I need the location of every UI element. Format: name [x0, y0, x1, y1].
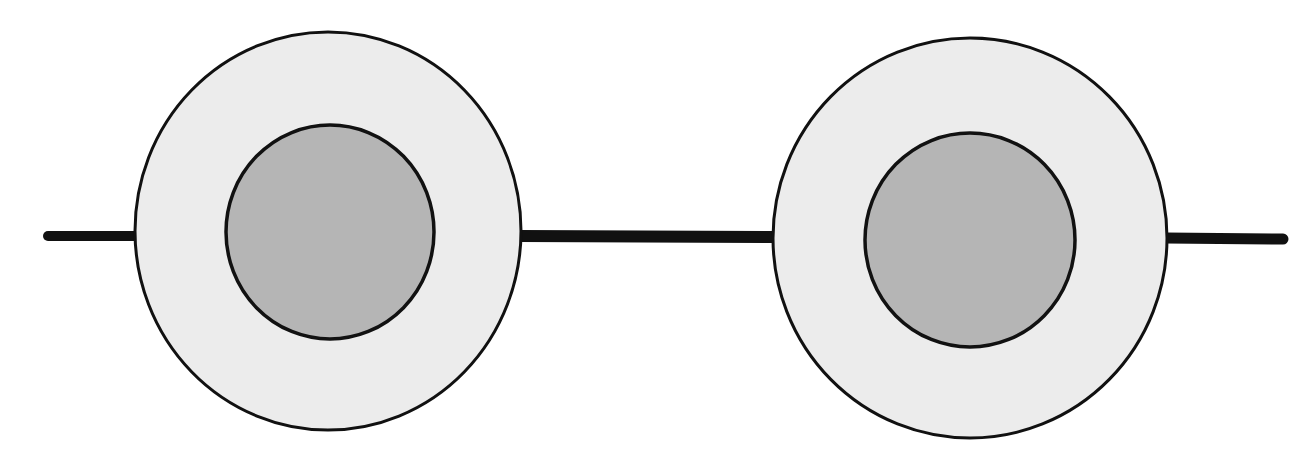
right-connector-line	[1166, 238, 1283, 239]
left-node-inner-circle	[226, 125, 434, 339]
middle-connector-line	[520, 236, 775, 237]
diagram-canvas	[0, 0, 1314, 465]
right-node-inner-circle	[865, 133, 1075, 347]
right-node	[773, 38, 1167, 438]
left-node	[135, 32, 521, 430]
